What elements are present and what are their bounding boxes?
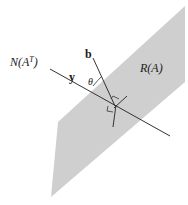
diagram-svg: N(AT) R(A) b y θ [0, 0, 188, 205]
plane-range-of-A [51, 6, 185, 197]
null-space-label: N(AT) [9, 55, 38, 69]
angle-theta-label: θ [88, 76, 93, 87]
range-label: R(A) [139, 61, 163, 75]
vector-y-label: y [69, 70, 75, 84]
vector-b-label: b [85, 47, 92, 61]
diagram-canvas: N(AT) R(A) b y θ [0, 0, 188, 205]
